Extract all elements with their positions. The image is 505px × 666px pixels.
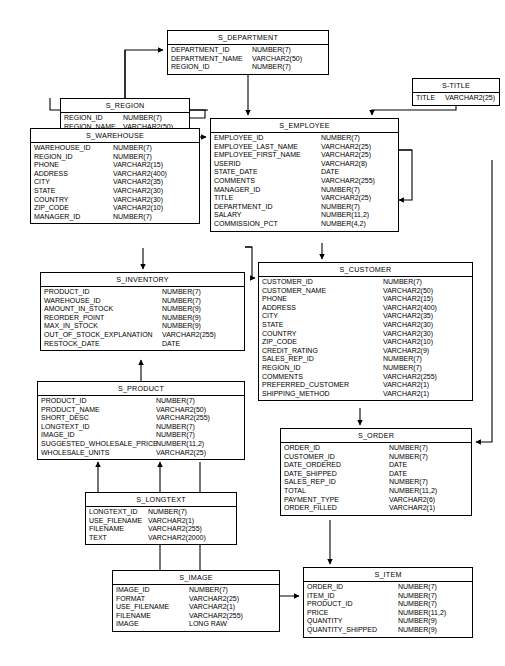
column-row: STATEVARCHAR2(30)	[31, 187, 199, 196]
table-s_department[interactable]: S_DEPARTMENTDEPARTMENT_IDNUMBER(7)DEPART…	[167, 30, 329, 75]
column-name: DATE_ORDERED	[281, 461, 341, 470]
column-type: VARCHAR2(50)	[252, 55, 302, 64]
er-diagram-canvas: S_DEPARTMENTDEPARTMENT_IDNUMBER(7)DEPART…	[0, 0, 505, 666]
column-type: NUMBER(7)	[156, 423, 195, 432]
column-row: COMMISSION_PCTNUMBER(4,2)	[211, 220, 398, 229]
column-row: ITEM_IDNUMBER(7)	[304, 592, 472, 601]
column-type: NUMBER(11,2)	[321, 211, 369, 220]
table-s_order[interactable]: S_ORDERORDER_IDNUMBER(7)CUSTOMER_IDNUMBE…	[280, 428, 472, 516]
column-row: ZIP_CODEVARCHAR2(10)	[259, 338, 472, 347]
table-s_item[interactable]: S_ITEMORDER_IDNUMBER(7)ITEM_IDNUMBER(7)P…	[303, 567, 473, 638]
column-row: LONGTEXT_IDNUMBER(7)	[38, 423, 244, 432]
table-s_customer[interactable]: S_CUSTOMERCUSTOMER_IDNUMBER(7)CUSTOMER_N…	[258, 262, 473, 401]
column-name: QUANTITY	[304, 617, 342, 626]
table-s_longtext[interactable]: S_LONGTEXTLONGTEXT_IDNUMBER(7)USE_FILENA…	[85, 492, 237, 545]
table-s_inventory[interactable]: S_INVENTORYPRODUCT_IDNUMBER(7)WAREHOUSE_…	[40, 272, 245, 351]
column-name: SUGGESTED_WHOLESALE_PRICE	[38, 440, 158, 449]
column-row: STATE_DATEDATE	[211, 168, 398, 177]
column-name: STATE	[31, 187, 56, 196]
column-type: NUMBER(7)	[398, 583, 437, 592]
column-name: COMMISSION_PCT	[211, 220, 278, 229]
column-list-s_title: TITLEVARCHAR2(25)	[413, 93, 499, 105]
column-type: NUMBER(7)	[123, 114, 162, 123]
column-type: NUMBER(7)	[113, 144, 152, 153]
table-s_warehouse[interactable]: S_WAREHOUSEWAREHOUSE_IDNUMBER(7)REGION_I…	[30, 128, 200, 224]
column-name: COMMENTS	[259, 373, 303, 382]
column-type: NUMBER(7)	[113, 153, 152, 162]
column-type: VARCHAR2(255)	[383, 373, 437, 382]
column-name: IMAGE	[113, 620, 139, 629]
column-list-s_employee: EMPLOYEE_IDNUMBER(7)EMPLOYEE_LAST_NAMEVA…	[211, 133, 398, 231]
column-type: LONG RAW	[189, 620, 227, 629]
column-list-s_order: ORDER_IDNUMBER(7)CUSTOMER_IDNUMBER(7)DAT…	[281, 443, 471, 515]
edge-employee-order	[476, 160, 492, 442]
table-title-s_longtext: S_LONGTEXT	[86, 493, 236, 507]
column-name: WAREHOUSE_ID	[41, 297, 101, 306]
column-name: ADDRESS	[31, 170, 68, 179]
column-type: VARCHAR2(1)	[389, 504, 435, 513]
column-row: SUGGESTED_WHOLESALE_PRICENUMBER(11,2)	[38, 440, 244, 449]
column-type: VARCHAR2(35)	[383, 312, 433, 321]
table-s_image[interactable]: S_IMAGEIMAGE_IDNUMBER(7)FORMATVARCHAR2(2…	[112, 570, 280, 632]
column-row: DEPARTMENT_IDNUMBER(7)	[168, 46, 328, 55]
column-row: QUANTITYNUMBER(9)	[304, 617, 472, 626]
column-name: ORDER_ID	[281, 444, 320, 453]
column-row: USE_FILENAMEVARCHAR2(1)	[86, 517, 236, 526]
column-row: WAREHOUSE_IDNUMBER(7)	[41, 297, 244, 306]
column-type: VARCHAR2(400)	[113, 170, 167, 179]
column-row: CITYVARCHAR2(35)	[259, 312, 472, 321]
column-type: DATE	[321, 168, 339, 177]
column-name: PRICE	[304, 609, 328, 618]
column-type: NUMBER(7)	[389, 444, 428, 453]
column-row: REGION_IDNUMBER(7)	[61, 114, 189, 123]
column-name: PREFERRED_CUSTOMER	[259, 381, 349, 390]
column-type: VARCHAR2(30)	[383, 321, 433, 330]
column-type: VARCHAR2(35)	[113, 178, 163, 187]
table-title-s_warehouse: S_WAREHOUSE	[31, 129, 199, 143]
column-name: EMPLOYEE_ID	[211, 134, 263, 143]
column-row: CREDIT_RATINGVARCHAR2(9)	[259, 347, 472, 356]
column-type: VARCHAR2(255)	[156, 414, 210, 423]
column-type: VARCHAR2(50)	[383, 287, 433, 296]
table-s_employee[interactable]: S_EMPLOYEEEMPLOYEE_IDNUMBER(7)EMPLOYEE_L…	[210, 118, 399, 232]
column-type: VARCHAR2(2000)	[148, 534, 206, 543]
column-row: REGION_IDNUMBER(7)	[31, 153, 199, 162]
column-row: MAX_IN_STOCKNUMBER(9)	[41, 322, 244, 331]
column-type: NUMBER(9)	[162, 314, 201, 323]
column-row: PRODUCT_IDNUMBER(7)	[304, 600, 472, 609]
column-row: LONGTEXT_IDNUMBER(7)	[86, 508, 236, 517]
column-row: SALARYNUMBER(11,2)	[211, 211, 398, 220]
column-name: DEPARTMENT_NAME	[168, 55, 243, 64]
column-row: COMMENTSVARCHAR2(255)	[259, 373, 472, 382]
column-type: NUMBER(9)	[162, 322, 201, 331]
column-type: NUMBER(7)	[252, 63, 291, 72]
column-name: COUNTRY	[31, 196, 68, 205]
column-type: VARCHAR2(25)	[189, 595, 239, 604]
column-type: VARCHAR2(25)	[156, 449, 206, 458]
column-row: CITYVARCHAR2(35)	[31, 178, 199, 187]
column-row: PHONEVARCHAR2(15)	[31, 161, 199, 170]
column-row: REORDER_POINTNUMBER(9)	[41, 314, 244, 323]
column-type: VARCHAR2(25)	[321, 194, 371, 203]
column-name: REGION_ID	[61, 114, 103, 123]
column-name: COUNTRY	[259, 330, 296, 339]
column-name: ORDER_FILLED	[281, 504, 337, 513]
column-row: USERIDVARCHAR2(8)	[211, 160, 398, 169]
column-row: TITLEVARCHAR2(25)	[211, 194, 398, 203]
column-row: MANAGER_IDNUMBER(7)	[31, 213, 199, 222]
table-s_title[interactable]: S-TITLETITLEVARCHAR2(25)	[412, 78, 500, 106]
column-row: FORMATVARCHAR2(25)	[113, 595, 279, 604]
column-row: PRODUCT_IDNUMBER(7)	[38, 397, 244, 406]
column-name: ITEM_ID	[304, 592, 335, 601]
column-row: SALES_REP_IDNUMBER(7)	[281, 478, 471, 487]
column-type: NUMBER(7)	[398, 600, 437, 609]
column-row: DEPARTMENT_IDNUMBER(7)	[211, 203, 398, 212]
column-type: NUMBER(7)	[321, 203, 360, 212]
column-row: SHORT_DESCVARCHAR2(255)	[38, 414, 244, 423]
table-s_product[interactable]: S_PRODUCTPRODUCT_IDNUMBER(7)PRODUCT_NAME…	[37, 381, 245, 460]
column-name: ZIP_CODE	[259, 338, 297, 347]
column-row: REGION_IDNUMBER(7)	[168, 63, 328, 72]
column-list-s_department: DEPARTMENT_IDNUMBER(7)DEPARTMENT_NAMEVAR…	[168, 45, 328, 74]
column-name: EMPLOYEE_FIRST_NAME	[211, 151, 301, 160]
column-name: PHONE	[259, 295, 287, 304]
